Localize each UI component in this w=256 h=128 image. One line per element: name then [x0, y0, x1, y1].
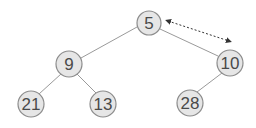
node-13: 13: [90, 91, 116, 117]
node-10: 10: [217, 50, 243, 76]
node-label: 13: [94, 95, 113, 114]
node-label: 21: [22, 95, 41, 114]
edge-9-13: [77, 74, 96, 93]
node-9: 9: [56, 51, 82, 77]
node-label: 9: [64, 55, 73, 74]
swap-arrow: [168, 21, 229, 41]
node-label: 10: [221, 54, 240, 73]
edge-9-21: [39, 74, 61, 94]
node-label: 28: [181, 94, 200, 113]
heap-tree-diagram: 5 9 10 21 13 28: [0, 0, 256, 128]
node-28: 28: [177, 90, 203, 116]
edge-10-28: [197, 73, 222, 92]
edge-5-9: [81, 27, 137, 58]
edge-5-10: [160, 29, 218, 56]
node-21: 21: [18, 91, 44, 117]
node-label: 5: [144, 14, 153, 33]
node-5: 5: [137, 11, 161, 35]
